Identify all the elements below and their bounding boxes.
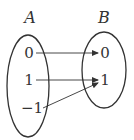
set-b-label: B	[97, 8, 110, 27]
mapping-diagram: A B 0 1 −1 0 1	[0, 0, 134, 140]
set-a-element-1: 1	[24, 71, 34, 89]
set-b-element-0: 0	[100, 44, 110, 62]
set-b-element-1: 1	[100, 71, 110, 89]
set-a-label: A	[22, 8, 36, 27]
set-a-element-neg1: −1	[21, 99, 43, 117]
arrow-neg1-to-1	[43, 83, 98, 108]
set-a-element-0: 0	[24, 44, 34, 62]
